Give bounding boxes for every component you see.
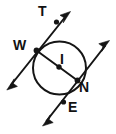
arrow-head-E-lower <box>43 115 54 126</box>
point-E-dot <box>61 99 66 104</box>
geometry-figure <box>0 0 116 134</box>
geometry-diagram: T W I N E <box>0 0 116 134</box>
arrow-head-E-upper <box>99 41 110 52</box>
point-label-E: E <box>68 100 77 114</box>
point-label-T: T <box>38 4 47 18</box>
point-label-N: N <box>79 80 89 94</box>
point-W-dot <box>34 48 40 54</box>
point-label-W: W <box>13 38 26 52</box>
point-label-I: I <box>60 52 64 66</box>
point-T-dot <box>54 19 59 24</box>
